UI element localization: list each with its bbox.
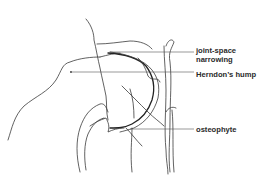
label-herndons-hump-text: Herndon’s hump [196,71,256,80]
femur-neck-diag [126,128,142,146]
pelvic-wall-line [86,19,108,120]
label-joint-space-line2: narrowing [196,56,236,65]
label-osteophyte-text: osteophyte [196,126,237,135]
right-vertical-far [172,110,174,172]
femoral-shaft-inner [85,118,104,170]
inner-line-2 [130,89,134,118]
label-joint-space-narrowing: joint-space narrowing [196,47,236,64]
femoral-shaft-left [77,104,108,172]
label-osteophyte: osteophyte [196,126,237,135]
leader-herndons-dot [70,71,72,73]
acetabulum-margin [110,52,159,132]
iliac-arc [97,41,152,49]
label-herndons-hump: Herndon’s hump [196,71,256,80]
hip-joint-drawing [0,0,271,189]
ilium-outline [8,57,100,140]
inner-line-1 [122,86,164,126]
lesser-trochanter [90,118,124,132]
right-hook [166,107,176,112]
